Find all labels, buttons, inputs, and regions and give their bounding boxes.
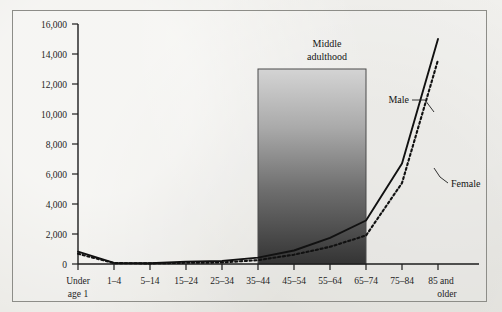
- x-tick-label-10-line1: 85 and: [428, 276, 454, 286]
- x-tick-label-4: 25–34: [210, 276, 234, 286]
- x-tick-label-5: 35–44: [246, 276, 270, 286]
- x-tick-label-1: 1–4: [107, 276, 122, 286]
- y-axis-ticks: [72, 24, 78, 264]
- y-tick-label-4000: 4,000: [46, 200, 68, 210]
- y-tick-label-2000: 2,000: [46, 230, 68, 240]
- y-tick-label-14000: 14,000: [41, 50, 67, 60]
- x-tick-label-2: 5–14: [141, 276, 160, 286]
- x-tick-label-3: 15–24: [174, 276, 198, 286]
- y-tick-label-10000: 10,000: [41, 110, 67, 120]
- middle-adulthood-rect: [258, 69, 366, 264]
- female-leader-line: [434, 168, 448, 183]
- y-tick-label-0: 0: [62, 260, 67, 270]
- female-series-label: Female: [451, 178, 481, 189]
- x-tick-label-0-line2: age 1: [68, 289, 89, 299]
- middle-adulthood-label-line1: Middle: [313, 38, 342, 49]
- x-axis-ticks: [78, 264, 438, 270]
- x-tick-label-10-line2: older: [437, 289, 457, 299]
- male-series-label: Male: [388, 94, 409, 105]
- y-tick-label-8000: 8,000: [46, 140, 68, 150]
- middle-adulthood-band: [258, 69, 366, 264]
- y-tick-label-12000: 12,000: [41, 80, 67, 90]
- middle-adulthood-label-line2: adulthood: [307, 51, 347, 62]
- y-tick-label-16000: 16,000: [41, 20, 67, 30]
- x-tick-label-8: 65–74: [354, 276, 378, 286]
- y-tick-label-6000: 6,000: [46, 170, 68, 180]
- x-tick-label-7: 55–64: [318, 276, 342, 286]
- x-tick-label-9: 75–84: [390, 276, 414, 286]
- line-chart-plot: Middle adulthood 16,000 14,000 12,000 10…: [13, 11, 486, 301]
- x-tick-label-0-line1: Under: [66, 276, 91, 286]
- x-tick-label-6: 45–54: [282, 276, 306, 286]
- chart-frame: Middle adulthood 16,000 14,000 12,000 10…: [12, 10, 487, 302]
